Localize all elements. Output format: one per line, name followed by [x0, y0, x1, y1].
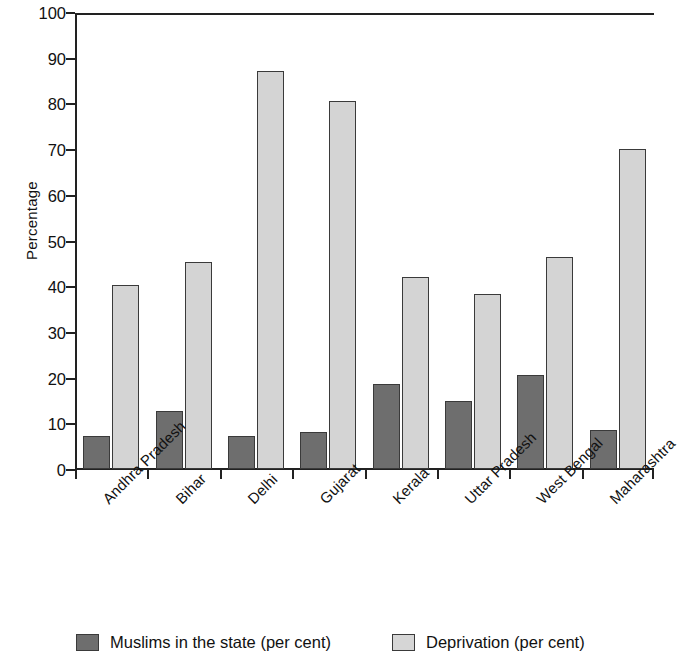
x-tick-4: [365, 470, 367, 479]
bar-deprivation-5: [474, 294, 501, 469]
legend-label-deprivation: Deprivation (per cent): [426, 633, 585, 652]
y-tick-label-10: 10: [6, 415, 66, 434]
bar-deprivation-1: [185, 262, 212, 469]
bar-muslims-0: [83, 436, 110, 469]
light-swatch-icon: [392, 634, 415, 651]
x-tick-7: [582, 470, 584, 479]
y-tick-70: [66, 149, 75, 151]
y-tick-10: [66, 423, 75, 425]
plot-area: 0102030405060708090100: [75, 13, 654, 470]
y-axis-title: Percentage: [23, 141, 40, 301]
y-tick-0: [66, 469, 75, 471]
x-category-label-4: Kerala: [389, 464, 432, 507]
legend-item-deprivation: Deprivation (per cent): [392, 633, 585, 652]
x-tick-1: [147, 470, 149, 479]
x-tick-3: [292, 470, 294, 479]
x-tick-6: [509, 470, 511, 479]
x-tick-2: [220, 470, 222, 479]
plot-top-border: [75, 13, 654, 15]
bar-deprivation-4: [402, 277, 429, 469]
y-tick-60: [66, 195, 75, 197]
bar-muslims-4: [373, 384, 400, 469]
bar-muslims-5: [445, 401, 472, 469]
y-tick-50: [66, 241, 75, 243]
legend-label-muslims: Muslims in the state (per cent): [110, 633, 331, 652]
y-tick-label-50: 50: [6, 232, 66, 251]
y-tick-label-70: 70: [6, 141, 66, 160]
bar-muslims-2: [228, 436, 255, 469]
y-tick-100: [66, 12, 75, 14]
bar-deprivation-6: [546, 257, 573, 469]
y-tick-label-60: 60: [6, 186, 66, 205]
y-tick-40: [66, 286, 75, 288]
dark-swatch-icon: [76, 634, 99, 651]
x-tick-0: [75, 470, 77, 479]
x-category-label-2: Delhi: [244, 470, 281, 507]
bar-deprivation-2: [257, 71, 284, 470]
x-axis-category-labels: Andhra PradeshBiharDelhiGujaratKeralaUtt…: [0, 481, 654, 591]
chart-legend: Muslims in the state (per cent) Deprivat…: [0, 631, 654, 663]
y-tick-90: [66, 58, 75, 60]
bar-muslims-3: [300, 432, 327, 469]
x-category-label-1: Bihar: [172, 470, 209, 507]
bar-deprivation-3: [329, 101, 356, 469]
bar-deprivation-0: [112, 285, 139, 469]
y-tick-label-30: 30: [6, 323, 66, 342]
y-tick-label-100: 100: [6, 4, 66, 23]
y-tick-label-40: 40: [6, 278, 66, 297]
y-tick-label-0: 0: [6, 461, 66, 480]
y-axis-line: [75, 13, 77, 470]
y-tick-20: [66, 378, 75, 380]
y-tick-label-90: 90: [6, 49, 66, 68]
x-tick-5: [437, 470, 439, 479]
bar-deprivation-7: [619, 149, 646, 469]
y-tick-label-20: 20: [6, 369, 66, 388]
y-tick-80: [66, 103, 75, 105]
legend-item-muslims: Muslims in the state (per cent): [76, 633, 331, 652]
y-tick-30: [66, 332, 75, 334]
y-tick-label-80: 80: [6, 95, 66, 114]
